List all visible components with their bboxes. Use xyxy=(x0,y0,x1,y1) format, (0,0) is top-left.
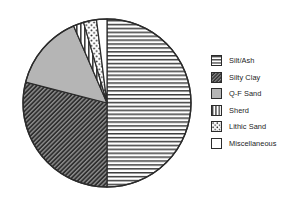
pie-slice-silt-ash[interactable] xyxy=(107,19,191,187)
legend-swatch-qf-sand xyxy=(211,88,222,99)
legend-swatch-lithic-sand xyxy=(211,121,222,132)
legend-item-label: Miscellaneous xyxy=(229,138,276,149)
chart-legend: Silt/AshSilty ClayQ-F SandSherdLithic Sa… xyxy=(211,55,276,149)
legend-item[interactable]: Sherd xyxy=(211,105,276,116)
pie-chart-plot-area xyxy=(20,16,194,190)
legend-swatch-miscellaneous xyxy=(211,138,222,149)
pie-chart-figure: Silt/AshSilty ClayQ-F SandSherdLithic Sa… xyxy=(0,0,291,209)
legend-item[interactable]: Silty Clay xyxy=(211,72,276,83)
legend-item[interactable]: Silt/Ash xyxy=(211,55,276,66)
legend-swatch-silt-ash xyxy=(211,55,222,66)
legend-swatch-sherd xyxy=(211,105,222,116)
legend-item[interactable]: Miscellaneous xyxy=(211,138,276,149)
legend-item-label: Silty Clay xyxy=(229,72,260,83)
legend-item-label: Lithic Sand xyxy=(229,121,266,132)
legend-item-label: Sherd xyxy=(229,105,249,116)
legend-item-label: Silt/Ash xyxy=(229,55,254,66)
legend-item-label: Q-F Sand xyxy=(229,88,261,99)
legend-item[interactable]: Q-F Sand xyxy=(211,88,276,99)
legend-item[interactable]: Lithic Sand xyxy=(211,121,276,132)
legend-swatch-silty-clay xyxy=(211,72,222,83)
chart-title-cropped xyxy=(0,0,291,2)
pie-chart-svg xyxy=(20,16,194,190)
